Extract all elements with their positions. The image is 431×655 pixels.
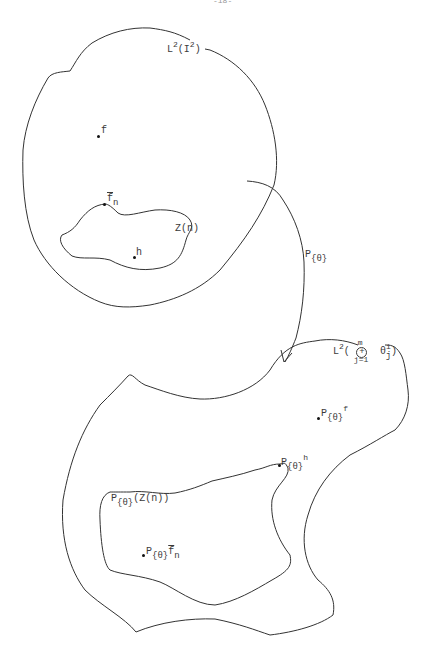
- bottom-subset-boundary: [100, 463, 291, 605]
- top-subset-label: Z(n): [175, 224, 199, 234]
- label-close: ): [391, 346, 397, 357]
- mapping-arrow-line: [247, 181, 304, 362]
- subset-arg: (Z(n)): [133, 493, 169, 504]
- point-f-dot: [97, 135, 100, 138]
- direct-sum-operator: m + j=1: [356, 347, 368, 358]
- point-pfn-dot: [142, 554, 145, 557]
- point-f-label: f: [101, 126, 107, 136]
- point-ph-label: P{θ}h: [281, 458, 308, 468]
- pfn-sub: {θ}: [152, 551, 168, 561]
- bottom-space-boundary: [62, 340, 408, 635]
- label-arg-sup: 2: [190, 40, 195, 49]
- ph-sub: {θ}: [287, 462, 303, 472]
- bottom-space-label: L2( m + j=1 θij): [333, 347, 397, 358]
- label-close: ): [195, 44, 201, 55]
- subset-sub: {θ}: [117, 498, 133, 508]
- label-sup: 2: [339, 342, 344, 351]
- theta-sup: i: [386, 342, 391, 351]
- point-h-label: h: [136, 248, 142, 258]
- bottom-subset-label: P{θ}(Z(n)): [111, 494, 169, 504]
- top-space-boundary: [23, 28, 277, 307]
- top-space-label: L2(I2): [167, 45, 201, 55]
- theta-sub: j: [386, 351, 391, 361]
- mapping-label: P{θ}: [305, 250, 327, 260]
- diagram-canvas: [0, 0, 431, 655]
- page-marker: -18-: [213, 0, 232, 6]
- label-arg: (I: [178, 44, 190, 55]
- ph-sup: h: [303, 453, 308, 462]
- point-pf-dot: [317, 417, 320, 420]
- pf-sup: f: [343, 404, 348, 413]
- direct-sum-upper: m: [358, 338, 363, 348]
- point-pfn-label: P{θ}fn: [146, 547, 180, 557]
- label-open: (: [344, 346, 350, 357]
- mapping-label-sub: {θ}: [311, 254, 327, 264]
- direct-sum-lower: j=1: [354, 355, 368, 365]
- pf-sub: {θ}: [327, 413, 343, 423]
- theta: θ: [380, 346, 386, 357]
- top-subset-boundary: [60, 204, 191, 270]
- point-pf-label: P{θ}f: [321, 409, 348, 419]
- pfn-n: n: [174, 551, 179, 561]
- point-fn-dot: [103, 203, 106, 206]
- label-sup: 2: [173, 40, 178, 49]
- point-fn-label: fn: [107, 194, 118, 204]
- fn-sub: n: [113, 198, 118, 208]
